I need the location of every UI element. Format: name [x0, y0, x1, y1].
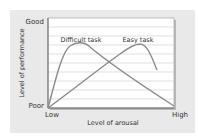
difficult-task-label: Difficult task: [61, 36, 102, 44]
easy-task-label: Easy task: [122, 36, 153, 44]
y-bottom-label: Poor: [29, 102, 45, 110]
y-axis-title: Level of performance: [18, 28, 26, 97]
chart-svg: Good Poor Low High Level of arousal Leve…: [0, 0, 198, 137]
y-top-label: Good: [26, 18, 44, 26]
x-right-label: High: [172, 111, 188, 119]
x-axis-title: Level of arousal: [87, 119, 139, 127]
x-left-label: Low: [45, 111, 59, 119]
